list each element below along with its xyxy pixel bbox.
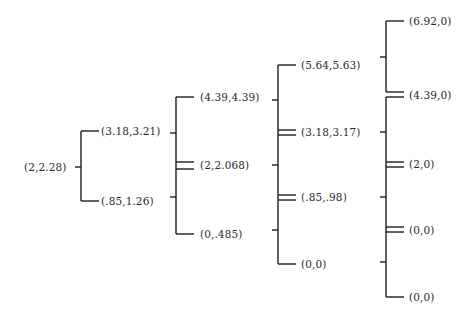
node-l4-3: (0,0): [409, 224, 434, 236]
node-l2-2: (0,.485): [200, 228, 242, 240]
node-l1-1: (.85,1.26): [101, 195, 154, 207]
node-l2-0: (4.39,4.39): [200, 91, 259, 103]
node-l3-0: (5.64,5.63): [301, 59, 360, 71]
node-l3-3: (0,0): [301, 258, 326, 270]
node-l1-0: (3.18,3.21): [101, 125, 160, 137]
node-l2-1: (2,2.068): [200, 159, 249, 171]
node-l4-1: (4.39,0): [409, 89, 451, 101]
node-root: (2,2.28): [24, 161, 66, 173]
tree-edges: [0, 0, 470, 315]
game-tree-diagram: (2,2.28) (3.18,3.21) (.85,1.26) (4.39,4.…: [0, 0, 470, 315]
node-l3-1: (3.18,3.17): [301, 126, 360, 138]
node-l4-2: (2,0): [409, 158, 434, 170]
node-l4-0: (6.92,0): [409, 15, 451, 27]
node-l3-2: (.85,.98): [301, 191, 347, 203]
node-l4-4: (0,0): [409, 291, 434, 303]
